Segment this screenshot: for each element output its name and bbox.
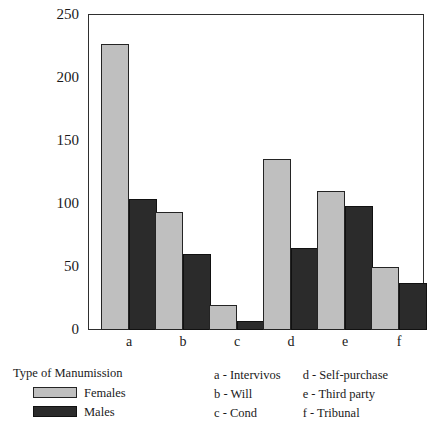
y-tick-label-250: 250 bbox=[57, 7, 80, 22]
bar-males-e bbox=[345, 206, 373, 330]
x-axis: a b c d e f bbox=[88, 332, 424, 354]
y-tick-label-50: 50 bbox=[64, 259, 79, 274]
bar-females-b bbox=[155, 212, 183, 330]
bar-females-c bbox=[209, 305, 237, 330]
key-column-right: d - Self-purchase e - Third party f - Tr… bbox=[303, 366, 388, 423]
legend-label-males: Males bbox=[84, 405, 115, 419]
key-item-d: d - Self-purchase bbox=[303, 366, 388, 385]
legend-title: Type of Manumission bbox=[13, 366, 203, 381]
key-item-e: e - Third party bbox=[303, 385, 388, 404]
key-item-f: f - Tribunal bbox=[303, 404, 388, 423]
key-item-b: b - Will bbox=[214, 385, 281, 404]
bar-males-f bbox=[399, 283, 427, 330]
females-swatch-icon bbox=[33, 387, 77, 398]
bar-females-d bbox=[263, 159, 291, 330]
x-tick-label-d: d bbox=[263, 334, 319, 349]
x-tick-label-c: c bbox=[209, 334, 265, 349]
bar-females-e bbox=[317, 191, 345, 330]
y-tick-label-150: 150 bbox=[57, 133, 80, 148]
key-item-a: a - Intervivos bbox=[214, 366, 281, 385]
y-tick-label-100: 100 bbox=[57, 196, 80, 211]
bar-males-a bbox=[129, 199, 157, 330]
bar-chart: 250 200 150 100 50 0 a b c d e f bbox=[0, 0, 443, 435]
x-tick-label-a: a bbox=[101, 334, 157, 349]
bar-males-b bbox=[183, 254, 211, 330]
y-tick-label-200: 200 bbox=[57, 70, 80, 85]
legend-label-females: Females bbox=[84, 386, 126, 400]
bar-females-a bbox=[101, 44, 129, 330]
y-tick-label-0: 0 bbox=[72, 322, 80, 337]
x-tick-label-f: f bbox=[371, 334, 427, 349]
key-column-left: a - Intervivos b - Will c - Cond bbox=[214, 366, 281, 423]
key-item-c: c - Cond bbox=[214, 404, 281, 423]
bar-males-c bbox=[237, 321, 265, 330]
x-tick-label-b: b bbox=[155, 334, 211, 349]
males-swatch-icon bbox=[33, 406, 77, 417]
chart-legend: Type of Manumission Females Males bbox=[13, 366, 203, 420]
category-key: a - Intervivos b - Will c - Cond d - Sel… bbox=[214, 366, 439, 423]
bar-males-d bbox=[291, 248, 319, 330]
bars-layer bbox=[88, 14, 424, 330]
legend-entry-females: Females bbox=[13, 384, 203, 401]
x-tick-label-e: e bbox=[317, 334, 373, 349]
bar-females-f bbox=[371, 267, 399, 330]
legend-entry-males: Males bbox=[13, 403, 203, 420]
